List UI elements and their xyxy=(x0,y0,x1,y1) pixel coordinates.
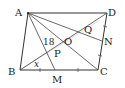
angle-label-18: 18 xyxy=(43,37,55,47)
label-b: B xyxy=(8,66,15,77)
tick-cn xyxy=(98,55,102,56)
tick-nd xyxy=(103,26,107,27)
label-c: C xyxy=(100,66,108,77)
label-n: N xyxy=(104,36,113,47)
label-a: A xyxy=(14,7,23,18)
label-d: D xyxy=(108,7,116,18)
label-m: M xyxy=(52,74,62,85)
label-q: Q xyxy=(84,24,92,35)
segment-ab xyxy=(20,13,28,70)
geometry-figure: A D B C M N O P Q 18 x xyxy=(0,0,125,88)
label-p: P xyxy=(54,48,61,59)
angle-label-x: x xyxy=(34,59,39,69)
label-o: O xyxy=(64,36,72,47)
vertex-a-dot xyxy=(27,12,29,14)
